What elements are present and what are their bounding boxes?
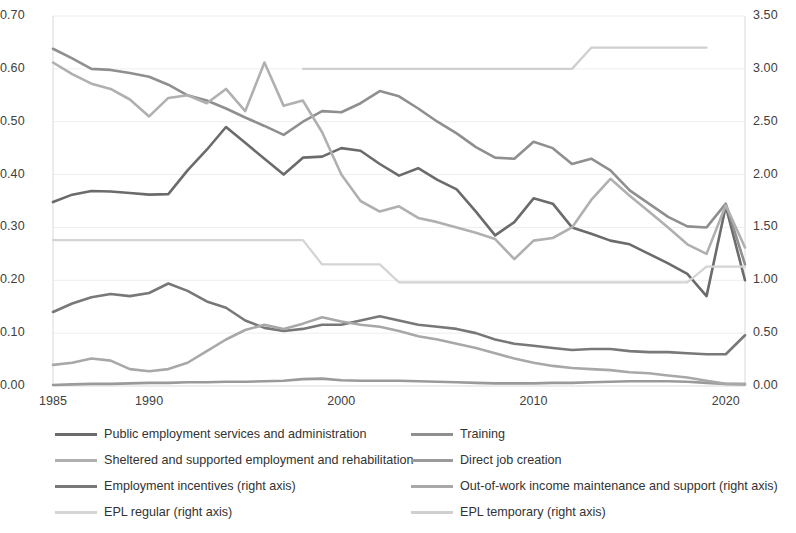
legend-color-swatch bbox=[411, 433, 453, 436]
y-axis-left-tick-label: 0.10 bbox=[0, 325, 45, 339]
y-axis-left-tick-label: 0.00 bbox=[0, 378, 45, 392]
legend-item-label: Sheltered and supported employment and r… bbox=[104, 454, 413, 467]
y-axis-right-tick-label: 1.00 bbox=[753, 272, 796, 286]
legend-item-label: Training bbox=[460, 428, 505, 441]
y-axis-right-tick-label: 3.50 bbox=[753, 8, 796, 22]
series-line bbox=[53, 379, 745, 385]
legend-item-label: EPL regular (right axis) bbox=[104, 506, 232, 519]
y-axis-right-tick-label: 0.00 bbox=[753, 378, 796, 392]
y-axis-right-tick-label: 1.50 bbox=[753, 219, 796, 233]
y-axis-left-tick-label: 0.70 bbox=[0, 8, 45, 22]
legend-color-swatch bbox=[55, 511, 97, 514]
legend-item[interactable]: Sheltered and supported employment and r… bbox=[55, 450, 413, 470]
y-axis-right-tick-label: 2.00 bbox=[753, 167, 796, 181]
x-axis-tick-label: 2010 bbox=[519, 394, 547, 408]
chart-container: 0.000.100.200.300.400.500.600.70 0.000.5… bbox=[0, 0, 796, 533]
y-axis-left-tick-label: 0.30 bbox=[0, 219, 45, 233]
legend-item-label: Out-of-work income maintenance and suppo… bbox=[460, 480, 778, 493]
legend-color-swatch bbox=[55, 433, 97, 436]
legend-item-label: EPL temporary (right axis) bbox=[460, 506, 606, 519]
legend-color-swatch bbox=[55, 485, 97, 488]
legend-color-swatch bbox=[411, 485, 453, 488]
legend-color-swatch bbox=[55, 459, 97, 462]
legend-item[interactable]: EPL temporary (right axis) bbox=[411, 502, 606, 522]
x-axis-tick-label: 2000 bbox=[327, 394, 355, 408]
series-line bbox=[53, 49, 745, 265]
y-axis-left-tick-label: 0.50 bbox=[0, 114, 45, 128]
legend-item[interactable]: Out-of-work income maintenance and suppo… bbox=[411, 476, 778, 496]
y-axis-right-tick-label: 3.00 bbox=[753, 61, 796, 75]
legend-item-label: Direct job creation bbox=[460, 454, 562, 467]
series-line bbox=[53, 127, 745, 296]
legend-color-swatch bbox=[411, 459, 453, 462]
legend-item[interactable]: Public employment services and administr… bbox=[55, 424, 367, 444]
y-axis-right-tick-label: 2.50 bbox=[753, 114, 796, 128]
legend-item[interactable]: Employment incentives (right axis) bbox=[55, 476, 296, 496]
y-axis-right-tick-label: 0.50 bbox=[753, 325, 796, 339]
series-line bbox=[303, 48, 707, 69]
series-line bbox=[53, 283, 745, 354]
legend-color-swatch bbox=[411, 511, 453, 514]
series-line bbox=[53, 63, 745, 260]
legend-item-label: Public employment services and administr… bbox=[104, 428, 367, 441]
data-series-group bbox=[53, 48, 745, 385]
series-line bbox=[53, 240, 745, 282]
chart-legend: Public employment services and administr… bbox=[55, 424, 785, 530]
legend-item[interactable]: Direct job creation bbox=[411, 450, 562, 470]
x-axis-tick-label: 1985 bbox=[39, 394, 67, 408]
legend-item[interactable]: EPL regular (right axis) bbox=[55, 502, 232, 522]
y-axis-left-tick-label: 0.60 bbox=[0, 61, 45, 75]
x-axis-tick-label: 2020 bbox=[712, 394, 740, 408]
legend-item-label: Employment incentives (right axis) bbox=[104, 480, 296, 493]
y-axis-left-tick-label: 0.40 bbox=[0, 167, 45, 181]
legend-item[interactable]: Training bbox=[411, 424, 505, 444]
x-axis-tick-label: 1990 bbox=[135, 394, 163, 408]
y-axis-left-tick-label: 0.20 bbox=[0, 272, 45, 286]
